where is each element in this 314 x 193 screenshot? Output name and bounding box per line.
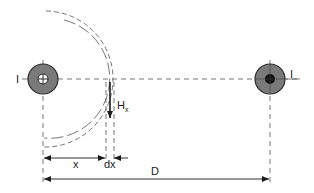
field-label: Hx xyxy=(117,99,129,113)
dx-label: dx xyxy=(104,158,116,170)
d-label: D xyxy=(151,165,159,177)
conductor-field-diagram: I I Hx x dx D xyxy=(0,0,314,193)
right-conductor xyxy=(255,64,285,94)
right-current-label: I xyxy=(290,68,293,80)
left-conductor xyxy=(28,64,58,94)
left-current-label: I xyxy=(16,73,19,85)
x-label: x xyxy=(73,158,79,170)
